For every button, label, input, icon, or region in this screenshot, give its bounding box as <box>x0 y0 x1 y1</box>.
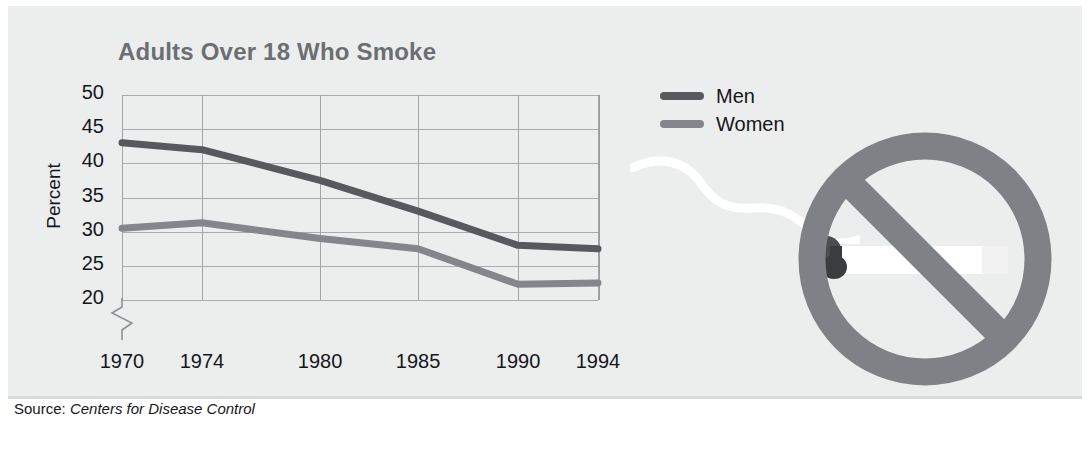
chart-title: Adults Over 18 Who Smoke <box>118 38 436 66</box>
legend-label-men: Men <box>716 85 755 108</box>
data-series-lines <box>122 95 598 300</box>
y-axis-ticks: 50454035302520 <box>52 95 104 300</box>
y-tick-label: 45 <box>52 115 104 138</box>
x-tick-label: 1970 <box>100 350 145 373</box>
x-axis-ticks: 197019741980198519901994 <box>122 350 598 376</box>
x-tick-label: 1985 <box>396 350 441 373</box>
source-note: Source: Centers for Disease Control <box>14 400 255 417</box>
figure-card-shadow <box>8 396 1082 399</box>
x-tick-label: 1990 <box>496 350 541 373</box>
y-tick-label: 30 <box>52 218 104 241</box>
plot-area <box>122 95 598 300</box>
gridline-vertical <box>598 95 599 300</box>
legend-item-men: Men <box>660 82 785 110</box>
gridline-horizontal <box>122 300 598 301</box>
series-line-women <box>122 223 598 285</box>
y-tick-label: 35 <box>52 184 104 207</box>
y-tick-label: 25 <box>52 252 104 275</box>
chart-figure: Adults Over 18 Who Smoke Percent 5045403… <box>0 0 1090 449</box>
legend-swatch-men <box>660 92 704 100</box>
series-line-men <box>122 143 598 249</box>
axis-break-icon <box>108 298 138 340</box>
no-smoking-icon <box>786 128 1064 390</box>
legend-swatch-women <box>660 120 704 128</box>
source-prefix: Source: <box>14 400 66 417</box>
x-tick-label: 1980 <box>298 350 343 373</box>
legend-item-women: Women <box>660 110 785 138</box>
chart-legend: Men Women <box>660 82 785 138</box>
x-tick-label: 1974 <box>180 350 225 373</box>
y-tick-label: 40 <box>52 149 104 172</box>
y-tick-label: 50 <box>52 81 104 104</box>
x-tick-label: 1994 <box>576 350 621 373</box>
source-name: Centers for Disease Control <box>70 400 255 417</box>
y-tick-label: 20 <box>52 286 104 309</box>
legend-label-women: Women <box>716 113 785 136</box>
